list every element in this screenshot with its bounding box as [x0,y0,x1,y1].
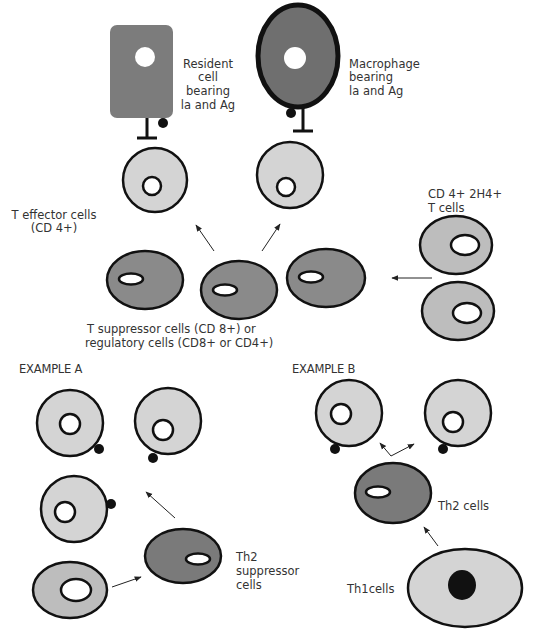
cd4-2h4-label: CD 4+ 2H4+ T cells [427,187,502,215]
svg-text:T effector cells: T effector cells [11,208,97,222]
antigen-dot [158,118,168,128]
example-a-cd4-cell [33,562,107,618]
t-effector-cell-left [123,148,187,212]
macrophage-label: Macrophage bearing la and Ag [349,57,420,98]
example-a-effector-1 [37,390,104,456]
svg-text:T cells: T cells [427,201,464,215]
svg-text:Resident: Resident [183,57,233,71]
th2-cells-label: Th2 cells [437,499,489,513]
svg-text:bearing: bearing [186,84,230,98]
arrow-to-effector-right [262,224,280,251]
th2-suppressor-label: Th2 suppressor cells [235,550,299,592]
resident-cell [110,25,173,138]
example-b-heading: EXAMPLE B [292,362,356,376]
svg-text:Th2: Th2 [235,550,258,564]
example-a-th2-suppressor-cell [145,529,221,583]
t-suppressor-label: T suppressor cells (CD 8+) or regulatory… [85,322,273,350]
t-suppressor-cell-2 [201,261,277,319]
svg-text:suppressor: suppressor [236,564,299,578]
example-a-effector-2 [135,388,201,463]
t-suppressor-cell-3 [287,249,365,307]
svg-text:CD 4+ 2H4+: CD 4+ 2H4+ [428,187,502,201]
arrow-a-th2-to-effector [146,492,175,518]
arrow-b-th2-to-effectors [380,443,414,456]
t-effector-cell-right [257,142,323,208]
svg-text:bearing: bearing [349,70,393,84]
arrow-a-cd4-to-th2 [112,577,141,587]
svg-text:Macrophage: Macrophage [349,57,420,71]
t-suppressor-cell-1 [107,251,183,309]
t-effector-label: T effector cells (CD 4+) [11,208,97,235]
example-a-heading: EXAMPLE A [19,362,83,376]
example-a-effector-3 [41,476,116,542]
example-b-th2-cell [355,463,431,523]
svg-text:cell: cell [198,70,218,84]
example-b-th1-cell [408,549,522,627]
arrow-b-th1-to-th2 [424,527,438,546]
svg-text:la and Ag: la and Ag [349,84,403,98]
svg-text:cells: cells [236,578,262,592]
macrophage-cell [258,5,338,131]
cd4-2h4-cell-top [420,216,492,274]
cd4-2h4-cell-bottom [422,282,494,340]
example-b-effector-1 [316,380,382,454]
example-b-effector-2 [425,380,491,454]
svg-text:la and Ag: la and Ag [181,98,235,112]
svg-text:(CD 4+): (CD 4+) [31,221,77,235]
svg-text:T suppressor cells (CD 8+) or: T suppressor cells (CD 8+) or [86,322,256,336]
svg-text:regulatory cells (CD8+ or CD4+: regulatory cells (CD8+ or CD4+) [85,336,273,350]
immune-regulation-diagram: Resident cell bearing la and Ag Macropha… [0,0,538,634]
resident-cell-label: Resident cell bearing la and Ag [181,57,235,112]
th1-cells-label: Th1cells [346,582,394,596]
arrow-to-effector-left [196,225,214,251]
antigen-dot [286,108,296,118]
